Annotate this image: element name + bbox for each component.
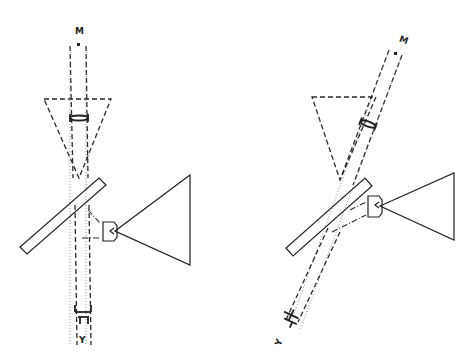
top-marker-dot (394, 52, 397, 55)
tilted-beam-path (286, 50, 402, 330)
right-panel-drawing (0, 0, 472, 364)
projection-cone (380, 173, 454, 240)
optical-diagram-figure: M Y (0, 0, 472, 364)
dashed-field-triangle (312, 97, 376, 180)
